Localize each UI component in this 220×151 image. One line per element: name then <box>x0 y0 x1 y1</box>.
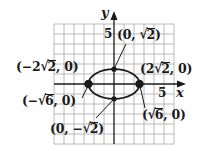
sqrt-icon: √ <box>38 94 46 108</box>
sqrt-icon: √ <box>148 108 156 122</box>
ellipse-graph: y x 5 5 (0, √2) (−2√2, 0) (2√2, 0) (−√6,… <box>0 0 220 151</box>
point-left <box>84 80 92 88</box>
point-right <box>135 80 143 88</box>
y-axis-arrow-icon <box>111 11 118 20</box>
sqrt-icon: √ <box>154 62 162 76</box>
label-bottom-point: (0, −√2) <box>50 122 104 136</box>
label-right-focus: (2√2, 0) <box>140 62 192 76</box>
label-left-focus: (−2√2, 0) <box>16 60 79 74</box>
sqrt-icon: √ <box>41 60 49 74</box>
label-top-point: (0, √2) <box>117 28 161 42</box>
label-left-vertex: (−√6, 0) <box>22 94 76 108</box>
sqrt-icon: √ <box>83 122 91 136</box>
sqrt-icon: √ <box>140 28 148 42</box>
point-top <box>111 67 116 72</box>
x-axis-label: x <box>176 86 184 99</box>
y-tick-5: 5 <box>104 28 112 40</box>
point-bottom <box>111 96 116 101</box>
x-tick-5: 5 <box>158 87 166 99</box>
label-right-vertex: (√6, 0) <box>142 108 186 122</box>
y-axis-label: y <box>101 6 109 19</box>
